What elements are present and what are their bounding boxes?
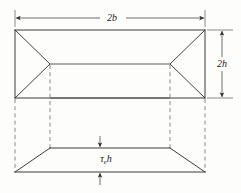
figure-container: 2b 2h xyxy=(0,0,241,193)
trapezoid-right-edge xyxy=(170,148,205,172)
diagonal-bottom-right xyxy=(170,64,205,98)
width-dimension-group: 2b xyxy=(15,10,205,27)
trapezoid-left-edge xyxy=(15,148,50,172)
inner-rectangle-group xyxy=(50,64,170,98)
thickness-dimension-group: τeh xyxy=(100,136,112,185)
thickness-dimension-label: τeh xyxy=(100,153,111,165)
diagonal-top-right xyxy=(170,30,205,64)
height-dimension-group: 2h xyxy=(207,30,233,98)
diagonal-bottom-left xyxy=(15,64,50,98)
engineering-diagram: 2b 2h xyxy=(0,0,241,193)
height-dimension-label: 2h xyxy=(217,58,227,69)
diagonal-top-left xyxy=(15,30,50,64)
width-dimension-label: 2b xyxy=(107,12,117,23)
thickness-variable: h xyxy=(107,153,112,164)
